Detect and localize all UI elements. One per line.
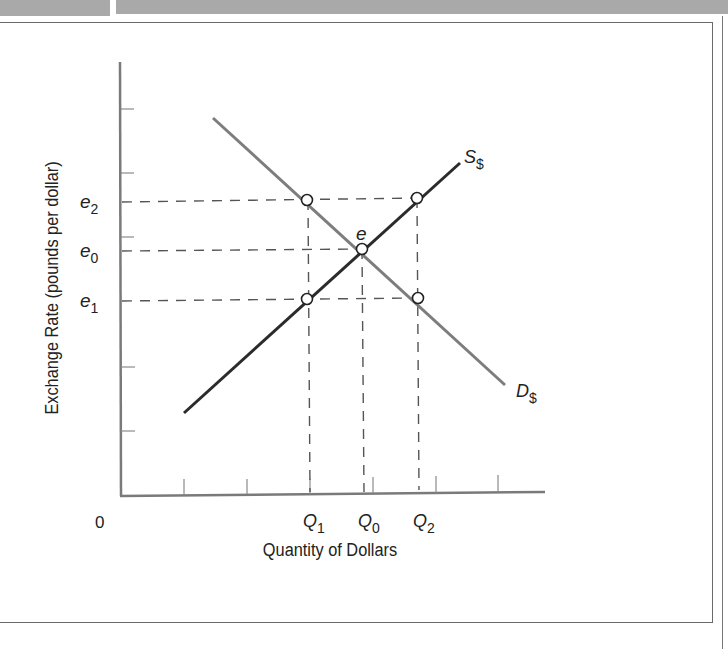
- q2-guide: [417, 198, 419, 490]
- point-q1-e2: [302, 195, 313, 206]
- q1-guide: [308, 200, 310, 492]
- x-label-q2: Q2: [413, 511, 435, 536]
- point-q2-e1: [413, 293, 424, 304]
- e1-guide: [122, 298, 418, 301]
- equilibrium-label: e: [356, 223, 367, 244]
- x-axis-label: Quantity of Dollars: [263, 539, 397, 560]
- point-q1-e1: [302, 294, 313, 305]
- supply-label: S$: [464, 147, 484, 172]
- y-axis-label: Exchange Rate (pounds per dollar): [41, 161, 62, 414]
- y-label-e0: e0: [80, 240, 99, 266]
- e2-guide: [122, 198, 417, 202]
- x-label-q0: Q0: [358, 511, 380, 536]
- y-axis: [120, 62, 121, 496]
- point-q2-e2: [412, 193, 423, 204]
- q0-guide: [362, 249, 364, 492]
- equilibrium-point: [357, 244, 368, 255]
- x-label-q1: Q1: [303, 511, 325, 536]
- origin-label: 0: [95, 513, 104, 532]
- y-axis-ticks: [121, 109, 135, 431]
- x-axis-ticks: [184, 475, 498, 494]
- exchange-rate-diagram: Exchange Rate (pounds per dollar) e2 e0 …: [0, 0, 728, 649]
- y-label-e1: e1: [80, 290, 99, 316]
- y-label-e2: e2: [80, 191, 99, 217]
- e0-guide: [122, 249, 362, 251]
- demand-label: D$: [516, 381, 537, 406]
